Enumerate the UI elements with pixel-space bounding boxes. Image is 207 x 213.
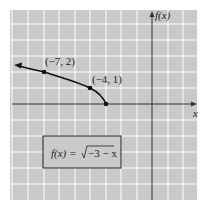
point-minus4-1: [88, 86, 93, 91]
y-axis-label: f(x): [155, 9, 171, 22]
grid-background: [10, 10, 197, 200]
point-minus7-2: [42, 70, 47, 75]
formula-lhs: f(x) =: [51, 147, 76, 160]
x-axis-label: x: [192, 107, 198, 119]
graph: f(x) x (−7, 2) (−4, 1) f(x) = −3 − x: [0, 0, 207, 213]
point1-label: (−7, 2): [45, 55, 75, 68]
point2-label: (−4, 1): [92, 73, 122, 86]
formula-radicand: −3 − x: [88, 147, 117, 159]
point-minus3-0: [104, 102, 109, 107]
